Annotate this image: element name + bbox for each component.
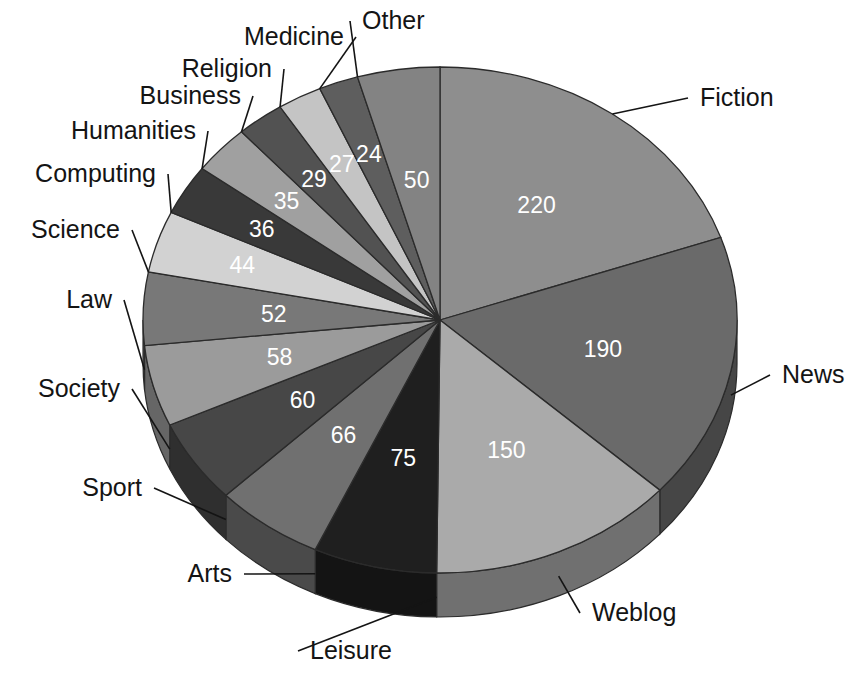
pie-chart-figure: 220190150756660585244363529272450 Fictio… xyxy=(0,0,864,684)
slice-value-computing: 36 xyxy=(249,216,275,242)
slice-value-law: 52 xyxy=(261,301,287,327)
slice-label-business: Business xyxy=(140,81,241,109)
slice-value-society: 58 xyxy=(267,344,293,370)
slice-label-weblog: Weblog xyxy=(592,598,676,626)
slice-label-fiction: Fiction xyxy=(700,83,774,111)
slice-label-leisure: Leisure xyxy=(310,636,392,664)
slice-label-sport: Sport xyxy=(82,473,142,501)
slice-label-arts: Arts xyxy=(188,559,232,587)
leader-line-computing xyxy=(168,174,171,212)
slice-value-humanities: 35 xyxy=(274,188,300,214)
slice-value-business: 29 xyxy=(301,166,327,192)
slice-label-medicine: Medicine xyxy=(244,22,344,50)
leader-line-law xyxy=(124,300,145,370)
slice-label-science: Science xyxy=(31,215,120,243)
slice-value-religion: 27 xyxy=(329,151,355,177)
slice-label-law: Law xyxy=(66,285,113,313)
slice-value-leisure: 75 xyxy=(391,445,417,471)
slice-value-other: 50 xyxy=(404,167,430,193)
slice-value-arts: 66 xyxy=(331,422,357,448)
slice-label-society: Society xyxy=(38,374,120,402)
slice-value-science: 44 xyxy=(230,252,256,278)
slice-value-fiction: 220 xyxy=(517,192,555,218)
slice-value-weblog: 150 xyxy=(487,437,525,463)
leader-line-fiction xyxy=(612,98,688,114)
slice-label-news: News xyxy=(782,360,845,388)
slice-value-news: 190 xyxy=(584,336,622,362)
leader-line-science xyxy=(132,230,148,272)
slice-value-sport: 60 xyxy=(290,387,316,413)
slice-label-computing: Computing xyxy=(35,159,156,187)
slice-value-medicine: 24 xyxy=(356,141,382,167)
pie-top-layer xyxy=(143,67,737,573)
leader-line-other xyxy=(350,21,357,77)
leader-line-religion xyxy=(280,69,284,107)
pie-chart-svg: 220190150756660585244363529272450 Fictio… xyxy=(0,0,864,684)
slice-label-religion: Religion xyxy=(182,54,272,82)
slice-label-other: Other xyxy=(362,6,425,34)
slice-label-humanities: Humanities xyxy=(71,116,196,144)
